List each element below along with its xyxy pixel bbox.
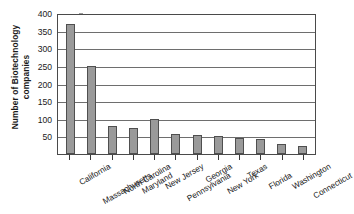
y-axis-tick-label: 350 (26, 27, 52, 36)
bar-slot (186, 15, 207, 154)
bar-slot (229, 15, 250, 154)
y-axis-tick-label: 100 (26, 115, 52, 124)
x-axis-tick-mark (260, 155, 261, 160)
bar (298, 146, 307, 154)
x-axis-tick-mark (282, 155, 283, 160)
x-axis-tick-mark (239, 155, 240, 160)
y-axis-tick-label: 200 (26, 80, 52, 89)
bar-slot (208, 15, 229, 154)
y-axis-tick-label: 250 (26, 63, 52, 72)
x-axis-tick-labels: CaliforniaMassachusettsNorth CarolinaMar… (57, 161, 316, 214)
bar-slot (144, 15, 165, 154)
bar (214, 136, 223, 154)
y-axis-tick-labels: 40035030025020015010050 (26, 14, 52, 155)
bar (150, 119, 159, 154)
x-axis-tick-mark (90, 155, 91, 160)
bar (66, 24, 75, 154)
bar (87, 66, 96, 154)
bar-slot (60, 15, 81, 154)
bar (256, 139, 265, 154)
x-axis-tick-mark (154, 155, 155, 160)
y-axis-title-line-1: Number of Biotechnology (10, 25, 21, 130)
bar (235, 138, 244, 154)
x-axis-tick-mark (175, 155, 176, 160)
y-axis-tick-label: 300 (26, 45, 52, 54)
y-axis-tick-label: 400 (26, 10, 52, 19)
bar (129, 128, 138, 154)
x-axis-tick-mark (69, 155, 70, 160)
plot-area (57, 14, 316, 155)
bar (108, 126, 117, 154)
bars-container (58, 15, 315, 154)
bar-slot (81, 15, 102, 154)
bar-slot (271, 15, 292, 154)
bar-slot (102, 15, 123, 154)
y-axis-tick-label: 50 (26, 133, 52, 142)
bar-slot (123, 15, 144, 154)
x-axis-tick-label: California (77, 162, 111, 187)
bar (277, 144, 286, 154)
bar (171, 134, 180, 154)
x-axis-tick-mark (112, 155, 113, 160)
bar (193, 135, 202, 154)
y-axis-tick-label: 150 (26, 98, 52, 107)
x-axis-tick-mark (218, 155, 219, 160)
bar-slot (250, 15, 271, 154)
bar-slot (165, 15, 186, 154)
bar-slot (292, 15, 313, 154)
x-axis-tick-mark (133, 155, 134, 160)
x-axis-tick-mark (197, 155, 198, 160)
x-axis-tick-label: Florida (267, 171, 293, 191)
x-axis-tick-mark (303, 155, 304, 160)
